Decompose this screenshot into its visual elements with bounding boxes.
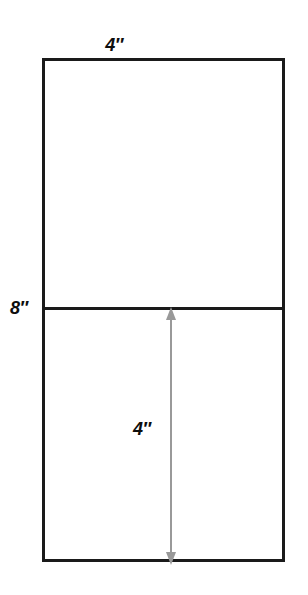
diagram-canvas: 4″ 8″ 4″ (0, 0, 308, 595)
left-height-label: 8″ (10, 299, 28, 317)
arrow-head-up-icon (166, 307, 176, 320)
arrow-head-down-icon (166, 552, 176, 565)
vertical-dimension-arrow (160, 307, 182, 565)
top-width-label: 4″ (0, 36, 268, 54)
inner-half-height-label: 4″ (133, 420, 151, 438)
